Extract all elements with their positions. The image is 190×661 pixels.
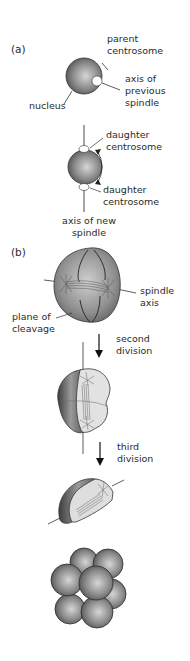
- cell-second-division: [58, 342, 110, 454]
- panel-b-label: (b): [11, 246, 26, 258]
- panel-a-label: (a): [11, 43, 26, 55]
- arrow-second-division: [95, 334, 103, 358]
- parent-centrosome-label: parent centrosome: [107, 33, 163, 57]
- eight-cell-embryo: [51, 548, 126, 628]
- arrow-third-division: [96, 442, 104, 466]
- daughter-centrosome-top-label: daughter centrosome: [106, 129, 162, 153]
- cell-third-division: [48, 479, 124, 524]
- axis-new-spindle-label: axis of new spindle: [61, 215, 117, 239]
- plane-of-cleavage-label: plane of cleavage: [12, 311, 55, 335]
- axis-previous-spindle-label: axis of previous spindle: [125, 73, 166, 109]
- daughter-centrosome-bottom-label: daughter centrosome: [103, 184, 159, 208]
- second-division-label: second division: [116, 333, 152, 357]
- nucleus-label: nucleus: [29, 100, 66, 112]
- cell-parent-centrosome: [64, 58, 120, 104]
- cell-first-division: [44, 248, 136, 322]
- third-division-label: third division: [117, 441, 153, 465]
- cell-daughter-centrosomes: [68, 125, 103, 212]
- spindle-axis-label: spindle axis: [140, 285, 174, 309]
